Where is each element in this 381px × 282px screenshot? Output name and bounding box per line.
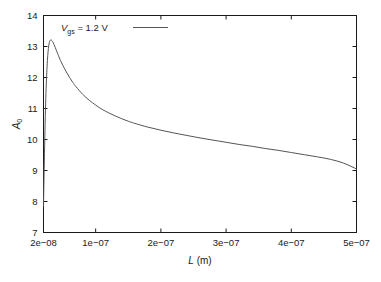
x-tick-label: 1e−07 (82, 237, 109, 248)
y-tick-label: 14 (27, 10, 38, 21)
x-tick-label: 2e−07 (148, 237, 175, 248)
y-tick-label: 9 (32, 165, 37, 176)
plot-frame (44, 16, 357, 233)
x-axis-tick-labels: 2e−081e−072e−073e−074e−075e−07 (30, 237, 370, 248)
x-tick-label: 2e−08 (30, 237, 57, 248)
data-series-line (44, 40, 357, 206)
line-chart: 7891011121314 2e−081e−072e−073e−074e−075… (0, 0, 381, 282)
y-axis-ticks (44, 16, 357, 233)
legend: Vgs = 1.2 V (61, 22, 168, 36)
y-axis-tick-labels: 7891011121314 (27, 10, 38, 238)
x-axis-ticks (44, 16, 357, 233)
legend-label: Vgs = 1.2 V (61, 22, 108, 36)
y-tick-label: 10 (27, 134, 38, 145)
y-tick-label: 11 (28, 103, 38, 114)
x-tick-label: 4e−07 (278, 237, 305, 248)
x-tick-label: 5e−07 (343, 237, 370, 248)
svg-text:A0: A0 (11, 119, 23, 131)
figure-container: 7891011121314 2e−081e−072e−073e−074e−075… (0, 0, 381, 282)
y-tick-label: 12 (27, 72, 38, 83)
y-axis-title: A0 (11, 119, 23, 131)
x-axis-title: L (m) (188, 255, 211, 266)
y-tick-label: 13 (27, 41, 38, 52)
y-tick-label: 8 (32, 196, 37, 207)
x-tick-label: 3e−07 (213, 237, 240, 248)
